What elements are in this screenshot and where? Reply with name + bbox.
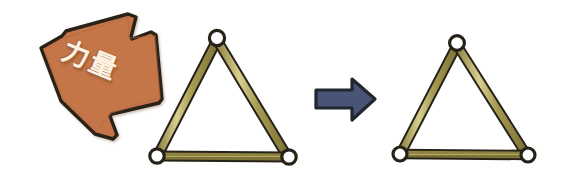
truss-bar-bottom xyxy=(158,156,288,157)
illustration-canvas: 力量 xyxy=(0,0,568,191)
truss-joint-bottom-right xyxy=(521,148,535,162)
truss-bar-right xyxy=(457,45,526,154)
truss-joint-bottom-left xyxy=(150,149,164,163)
truss-joint-apex xyxy=(450,36,465,51)
truss-bar-left xyxy=(401,45,457,153)
truss-bar-bottom xyxy=(401,154,527,155)
truss-bar-left xyxy=(158,40,217,155)
triangle-truss-after xyxy=(393,36,535,162)
truss-joint-bottom-right xyxy=(282,150,296,164)
force-arrow xyxy=(41,14,162,139)
transition-arrow xyxy=(316,79,375,120)
truss-bar-right xyxy=(217,40,287,156)
truss-joint-apex xyxy=(209,30,224,45)
force-arrow-shape xyxy=(41,14,162,139)
triangle-truss-before xyxy=(150,30,296,164)
figure-svg xyxy=(0,0,568,191)
truss-joint-bottom-left xyxy=(393,147,407,161)
right-arrow-icon xyxy=(316,79,375,120)
